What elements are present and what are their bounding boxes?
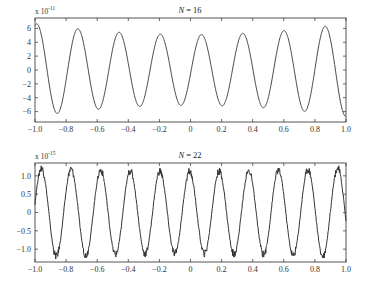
y-tick-label: −1.0 (16, 245, 31, 254)
x-tick-label: 0 (189, 265, 193, 274)
y-tick-label: −4 (22, 94, 31, 103)
panel-bottom-title: N = 22 (177, 150, 201, 160)
y-tick-label: −2 (22, 80, 31, 89)
y-tick-label: 4 (27, 38, 31, 47)
y-tick-label: −0.5 (16, 227, 31, 236)
x-tick-label: 0.4 (248, 265, 258, 274)
panel-bottom-axes-box (35, 163, 346, 262)
y-tick-label: 2 (27, 52, 31, 61)
panel-bottom-ticks: −1.0−0.8−0.6−0.4−0.200.20.40.60.81.01.00… (16, 163, 351, 274)
y-tick-label: 6 (27, 24, 31, 33)
y-tick-label: 0.5 (21, 190, 31, 199)
x-tick-label: −1.0 (28, 125, 43, 134)
x-tick-label: 1.0 (341, 125, 351, 134)
x-tick-label: 0.2 (217, 125, 227, 134)
panel-bottom-curve (35, 166, 346, 259)
x-tick-label: 0.8 (310, 265, 320, 274)
y-tick-label: 1.0 (21, 172, 31, 181)
x-tick-label: 0.6 (279, 125, 289, 134)
x-tick-label: −0.6 (90, 265, 105, 274)
panel-bottom: N = 22 x 10-15 −1.0−0.8−0.6−0.4−0.200.20… (16, 150, 351, 274)
y-tick-label: 0 (27, 208, 31, 217)
x-tick-label: −0.8 (59, 125, 74, 134)
x-tick-label: −0.4 (121, 125, 136, 134)
panel-bottom-multiplier: x 10-15 (35, 150, 56, 161)
x-tick-label: 0 (189, 125, 193, 134)
panel-top-title: N = 16 (177, 5, 201, 15)
panel-top-curve (35, 24, 346, 117)
x-tick-label: −0.4 (121, 265, 136, 274)
x-tick-label: 0.6 (279, 265, 289, 274)
x-tick-label: 0.4 (248, 125, 258, 134)
x-tick-label: −0.2 (152, 265, 167, 274)
y-tick-label: −6 (22, 107, 31, 116)
x-tick-label: −0.2 (152, 125, 167, 134)
panel-top: N = 16 x 10-11 −1.0−0.8−0.6−0.4−0.200.20… (22, 5, 351, 134)
y-tick-label: 0 (27, 66, 31, 75)
panel-top-multiplier: x 10-11 (35, 5, 56, 16)
x-tick-label: −0.8 (59, 265, 74, 274)
x-tick-label: −0.6 (90, 125, 105, 134)
figure: N = 16 x 10-11 −1.0−0.8−0.6−0.4−0.200.20… (0, 0, 367, 294)
x-tick-label: 0.2 (217, 265, 227, 274)
x-tick-label: −1.0 (28, 265, 43, 274)
x-tick-label: 0.8 (310, 125, 320, 134)
panel-top-axes-box (35, 18, 346, 122)
x-tick-label: 1.0 (341, 265, 351, 274)
panel-top-ticks: −1.0−0.8−0.6−0.4−0.200.20.40.60.81.06420… (22, 18, 351, 134)
